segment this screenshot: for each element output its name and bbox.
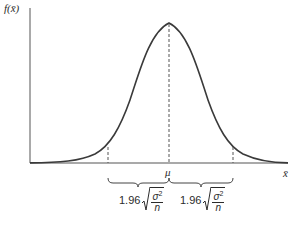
- coefficient: 1.96: [119, 194, 140, 206]
- mean-label: μ: [165, 166, 171, 178]
- coefficient: 1.96: [180, 194, 201, 206]
- left-interval-label: 1.96 σ2 n: [119, 187, 164, 213]
- density-curve: [30, 23, 288, 163]
- right-interval-label: 1.96 σ2 n: [180, 187, 225, 213]
- sqrt-symbol: σ2 n: [142, 187, 164, 213]
- right-brace: [169, 178, 233, 187]
- y-axis-label: f(x̄): [4, 2, 19, 14]
- sqrt-symbol: σ2 n: [203, 187, 225, 213]
- left-brace: [108, 178, 169, 187]
- x-axis-label: x̄: [283, 167, 288, 179]
